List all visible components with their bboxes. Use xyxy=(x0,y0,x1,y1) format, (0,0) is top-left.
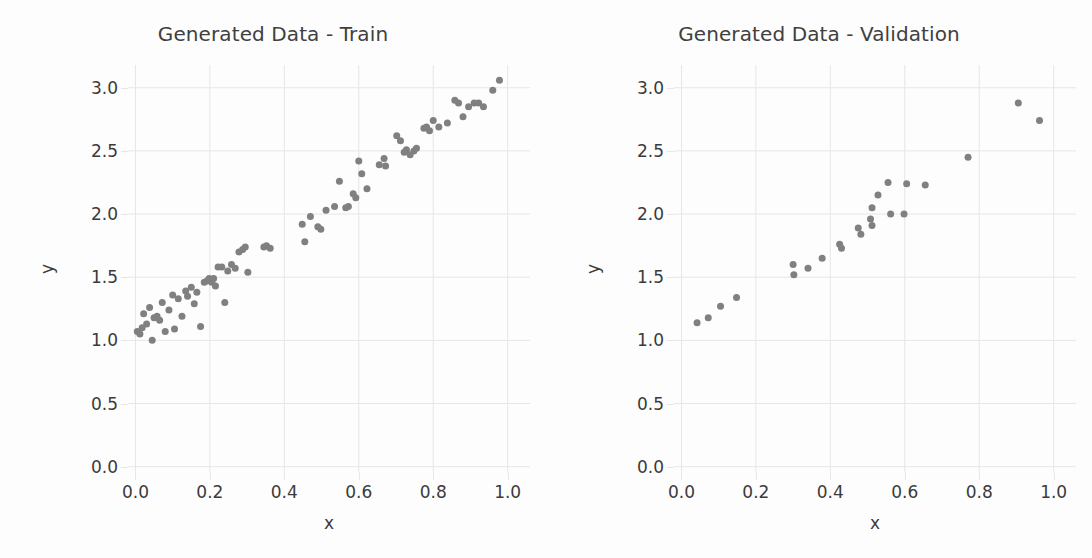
panel-title-validation: Generated Data - Validation xyxy=(546,22,1092,46)
scatter-point xyxy=(331,203,338,210)
x-tick-label: 0.0 xyxy=(122,482,149,502)
y-tick-label: 2.5 xyxy=(546,141,664,161)
plot-area-validation xyxy=(674,65,1076,473)
y-tick-mark xyxy=(121,88,128,89)
scatter-point xyxy=(267,245,274,252)
scatter-point xyxy=(496,77,503,84)
x-tick-label: 1.0 xyxy=(1040,482,1067,502)
x-tick-mark xyxy=(135,473,136,480)
x-tick-label: 1.0 xyxy=(494,482,521,502)
scatter-point xyxy=(790,271,797,278)
y-tick-label: 1.5 xyxy=(546,267,664,287)
scatter-point xyxy=(397,137,404,144)
scatter-point xyxy=(149,337,156,344)
y-tick-label: 1.5 xyxy=(0,267,118,287)
scatter-point xyxy=(212,283,219,290)
scatter-point xyxy=(336,178,343,185)
x-tick-label: 0.0 xyxy=(668,482,695,502)
y-tick-mark xyxy=(121,277,128,278)
y-tick-label: 0.5 xyxy=(0,394,118,414)
x-tick-label: 0.4 xyxy=(271,482,298,502)
x-tick-label: 0.2 xyxy=(196,482,223,502)
scatter-point xyxy=(218,264,225,271)
scatter-point xyxy=(869,222,876,229)
panel-title-train: Generated Data - Train xyxy=(0,22,546,46)
scatter-point xyxy=(382,163,389,170)
scatter-point xyxy=(210,275,217,282)
x-tick-mark xyxy=(508,473,509,480)
y-tick-label: 2.5 xyxy=(0,141,118,161)
y-tick-mark xyxy=(667,214,674,215)
scatter-canvas-train xyxy=(128,65,530,473)
axis-label-x-validation: x xyxy=(870,513,880,533)
scatter-point xyxy=(232,265,239,272)
scatter-point xyxy=(1036,117,1043,124)
scatter-point xyxy=(165,307,172,314)
scatter-point xyxy=(136,331,143,338)
y-tick-mark xyxy=(121,340,128,341)
scatter-point xyxy=(838,245,845,252)
scatter-point xyxy=(224,267,231,274)
scatter-point xyxy=(143,320,150,327)
scatter-point xyxy=(159,299,166,306)
x-tick-mark xyxy=(359,473,360,480)
panel-train: Generated Data - Train x y 0.00.51.01.52… xyxy=(0,0,546,558)
scatter-point xyxy=(299,221,306,228)
scatter-point xyxy=(867,216,874,223)
y-tick-mark xyxy=(667,467,674,468)
scatter-point xyxy=(156,317,163,324)
x-tick-mark xyxy=(905,473,906,480)
scatter-point xyxy=(922,182,929,189)
scatter-point xyxy=(242,243,249,250)
scatter-point xyxy=(188,284,195,291)
scatter-canvas-validation xyxy=(674,65,1076,473)
scatter-point xyxy=(363,185,370,192)
y-tick-mark xyxy=(121,467,128,468)
scatter-point xyxy=(965,154,972,161)
x-tick-mark xyxy=(681,473,682,480)
y-tick-label: 2.0 xyxy=(546,204,664,224)
y-tick-mark xyxy=(667,88,674,89)
y-tick-mark xyxy=(667,404,674,405)
scatter-point xyxy=(855,224,862,231)
scatter-point xyxy=(1015,99,1022,106)
scatter-point xyxy=(430,117,437,124)
scatter-point xyxy=(887,211,894,218)
scatter-point xyxy=(140,310,147,317)
scatter-point xyxy=(819,255,826,262)
scatter-point xyxy=(413,145,420,152)
scatter-point xyxy=(460,113,467,120)
x-tick-label: 0.2 xyxy=(742,482,769,502)
y-tick-label: 1.0 xyxy=(0,330,118,350)
scatter-point xyxy=(244,269,251,276)
plot-area-train xyxy=(128,65,530,473)
scatter-point xyxy=(323,207,330,214)
scatter-point xyxy=(435,123,442,130)
y-tick-label: 0.0 xyxy=(0,457,118,477)
x-tick-mark xyxy=(756,473,757,480)
scatter-point xyxy=(381,155,388,162)
x-tick-label: 0.6 xyxy=(891,482,918,502)
scatter-point xyxy=(885,179,892,186)
y-tick-mark xyxy=(667,340,674,341)
scatter-point xyxy=(345,203,352,210)
scatter-point xyxy=(146,304,153,311)
scatter-point xyxy=(301,238,308,245)
scatter-point xyxy=(355,158,362,165)
x-tick-label: 0.8 xyxy=(966,482,993,502)
scatter-point xyxy=(221,299,228,306)
scatter-point xyxy=(171,326,178,333)
x-tick-label: 0.4 xyxy=(817,482,844,502)
y-tick-mark xyxy=(121,404,128,405)
figure-root: Generated Data - Train x y 0.00.51.01.52… xyxy=(0,0,1092,558)
axis-label-x-train: x xyxy=(324,513,334,533)
scatter-point xyxy=(317,226,324,233)
y-tick-mark xyxy=(667,151,674,152)
scatter-point xyxy=(874,192,881,199)
scatter-point xyxy=(869,204,876,211)
scatter-point xyxy=(352,194,359,201)
scatter-point xyxy=(426,127,433,134)
scatter-point xyxy=(901,211,908,218)
scatter-point xyxy=(307,213,314,220)
scatter-point xyxy=(175,295,182,302)
